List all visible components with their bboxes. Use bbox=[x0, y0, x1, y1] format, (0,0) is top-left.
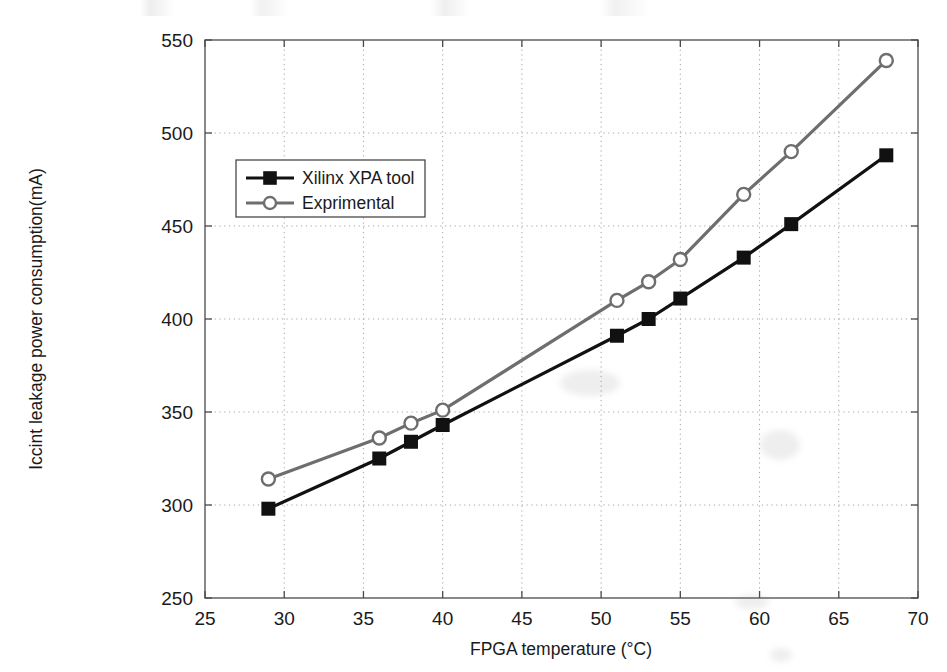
y-tick-label: 550 bbox=[161, 30, 193, 51]
y-tick-label: 300 bbox=[161, 495, 193, 516]
y-axis-title: Iccint leakage power consumption(mA) bbox=[26, 168, 46, 470]
data-point-marker-square bbox=[738, 252, 750, 264]
tick-labels: 2530354045505560657025030035040045050055… bbox=[161, 30, 928, 629]
data-point-marker-circle bbox=[404, 417, 417, 430]
line-chart-svg: 2530354045505560657025030035040045050055… bbox=[0, 0, 947, 672]
chart-legend: Xilinx XPA tool Exprimental bbox=[236, 160, 425, 217]
data-point-marker-circle bbox=[737, 188, 750, 201]
legend-label-series-2: Exprimental bbox=[302, 193, 394, 213]
series-2 bbox=[262, 54, 893, 486]
data-point-marker-circle bbox=[373, 432, 386, 445]
data-series bbox=[262, 54, 893, 515]
data-point-marker-circle bbox=[880, 54, 893, 67]
data-point-marker-square bbox=[611, 330, 623, 342]
data-point-marker-square bbox=[785, 218, 797, 230]
legend-marker-circle-icon bbox=[264, 197, 276, 209]
x-tick-label: 55 bbox=[670, 608, 691, 629]
x-tick-label: 40 bbox=[432, 608, 453, 629]
legend-label-series-1: Xilinx XPA tool bbox=[302, 168, 415, 188]
plot-frame bbox=[205, 40, 918, 598]
x-tick-label: 30 bbox=[274, 608, 295, 629]
y-tick-label: 250 bbox=[161, 588, 193, 609]
x-tick-label: 35 bbox=[353, 608, 374, 629]
data-point-marker-square bbox=[405, 436, 417, 448]
data-point-marker-circle bbox=[262, 472, 275, 485]
data-point-marker-circle bbox=[436, 404, 449, 417]
x-axis-title: FPGA temperature (°C) bbox=[470, 639, 652, 659]
y-tick-label: 400 bbox=[161, 309, 193, 330]
data-point-marker-circle bbox=[642, 275, 655, 288]
data-point-marker-square bbox=[880, 149, 892, 161]
tick-marks bbox=[205, 40, 918, 598]
data-point-marker-square bbox=[437, 419, 449, 431]
x-tick-label: 70 bbox=[907, 608, 928, 629]
legend-marker-square-icon bbox=[264, 172, 276, 184]
data-point-marker-square bbox=[373, 453, 385, 465]
data-point-marker-square bbox=[262, 503, 274, 515]
x-tick-label: 50 bbox=[591, 608, 612, 629]
x-tick-label: 45 bbox=[511, 608, 532, 629]
y-tick-label: 350 bbox=[161, 402, 193, 423]
grid-lines bbox=[205, 40, 918, 598]
data-point-marker-square bbox=[643, 313, 655, 325]
data-point-marker-circle bbox=[674, 253, 687, 266]
y-tick-label: 450 bbox=[161, 216, 193, 237]
data-point-marker-circle bbox=[785, 145, 798, 158]
y-tick-label: 500 bbox=[161, 123, 193, 144]
series-line bbox=[268, 60, 886, 479]
x-tick-label: 65 bbox=[828, 608, 849, 629]
x-tick-label: 25 bbox=[194, 608, 215, 629]
chart-figure: 2530354045505560657025030035040045050055… bbox=[0, 0, 947, 672]
data-point-marker-circle bbox=[610, 294, 623, 307]
x-tick-label: 60 bbox=[749, 608, 770, 629]
data-point-marker-square bbox=[674, 293, 686, 305]
